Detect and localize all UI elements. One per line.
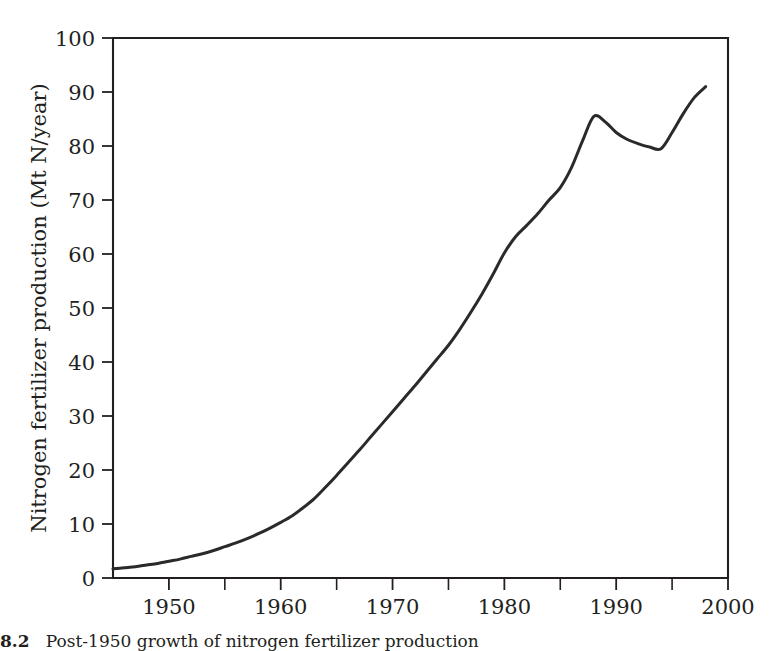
figure-caption-spacer (30, 631, 46, 651)
y-axis-title: Nitrogen fertilizer production (Mt N/yea… (27, 83, 51, 532)
data-series-line (113, 87, 706, 569)
y-tick-label-80: 80 (68, 135, 95, 159)
y-axis-tick-marks (102, 38, 113, 578)
y-tick-label-20: 20 (68, 459, 95, 483)
figure-caption-number: 8.2 (0, 631, 30, 651)
y-tick-label-30: 30 (68, 405, 95, 429)
figure-caption: 8.2 Post-1950 growth of nitrogen fertili… (0, 631, 775, 651)
x-axis-tick-labels: 195019601970198019902000 (142, 595, 755, 619)
x-tick-label-1990: 1990 (589, 595, 642, 619)
figure-caption-body: Post-1950 growth of nitrogen fertilizer … (46, 631, 479, 651)
y-tick-label-50: 50 (68, 297, 95, 321)
x-tick-label-1960: 1960 (254, 595, 307, 619)
y-tick-label-100: 100 (55, 27, 95, 51)
y-tick-label-70: 70 (68, 189, 95, 213)
y-tick-label-90: 90 (68, 81, 95, 105)
x-tick-label-1950: 1950 (142, 595, 195, 619)
y-tick-label-0: 0 (82, 567, 95, 591)
y-axis-tick-labels: 0102030405060708090100 (55, 27, 95, 591)
x-tick-label-2000: 2000 (701, 595, 754, 619)
x-tick-label-1970: 1970 (366, 595, 419, 619)
y-tick-label-10: 10 (68, 513, 95, 537)
y-tick-label-40: 40 (68, 351, 95, 375)
plot-frame-box (113, 38, 728, 578)
x-axis-minor-tick-marks (225, 578, 672, 590)
x-tick-label-1980: 1980 (478, 595, 531, 619)
y-tick-label-60: 60 (68, 243, 95, 267)
